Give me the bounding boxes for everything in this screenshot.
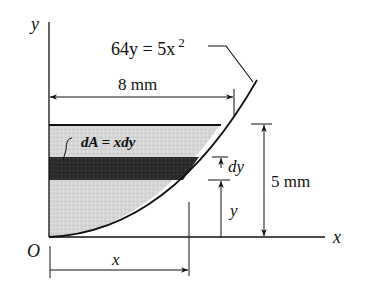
origin-label: O <box>27 241 40 261</box>
y-dimension-label: y <box>228 201 238 220</box>
curve-equation-exponent: 2 <box>178 35 185 50</box>
x-axis-label: x <box>332 227 341 247</box>
x-dimension-label: x <box>111 250 120 269</box>
curve-equation-main: 64y = 5x <box>111 39 175 59</box>
equation-leader-line <box>208 46 253 82</box>
element-strip <box>49 157 199 180</box>
height-dimension-label: 5 mm <box>271 172 310 191</box>
y-axis-label: y <box>29 14 39 34</box>
element-label: dA = xdy <box>81 134 136 150</box>
width-dimension-label: 8 mm <box>118 75 157 94</box>
curve-equation: 64y = 5x2 <box>111 35 185 59</box>
diagram-canvas: y x O 64y = 5x2 8 mm 5 mm dy y x dA = xd… <box>0 0 370 294</box>
dy-label: dy <box>228 157 245 176</box>
